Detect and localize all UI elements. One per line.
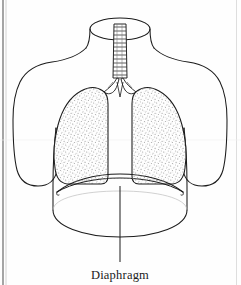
left-lung bbox=[54, 88, 108, 184]
diaphragm-right-cap bbox=[181, 192, 183, 195]
neck-left-side bbox=[86, 29, 90, 48]
left-lung-stipple-overlay bbox=[54, 88, 108, 184]
anatomical-figure: Diaphragm bbox=[0, 0, 241, 285]
diaphragm-left-cap bbox=[57, 192, 59, 195]
left-main-bronchus bbox=[104, 78, 119, 94]
bronchi bbox=[104, 78, 136, 97]
diaphragm-label: Diaphragm bbox=[91, 268, 149, 282]
trachea bbox=[112, 24, 128, 78]
right-lung-stipple-overlay bbox=[132, 88, 186, 184]
right-main-bronchus bbox=[121, 78, 136, 94]
right-lung bbox=[132, 88, 186, 184]
diaphragm-callout: Diaphragm bbox=[91, 186, 149, 282]
diaphragm-diagram-svg: Diaphragm bbox=[0, 0, 241, 285]
neck-right-side bbox=[150, 29, 154, 48]
